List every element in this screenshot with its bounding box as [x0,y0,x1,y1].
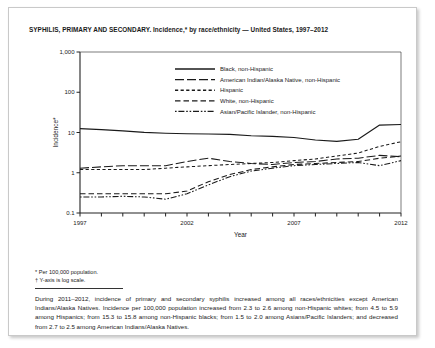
horizontal-divider [35,288,123,289]
chart-container: 1,0001001010.11997200220072012YearIncide… [9,38,418,243]
x-axis-tick-label: 1997 [73,220,87,226]
report-page: SYPHILIS, PRIMARY AND SECONDARY. Inciden… [8,7,417,336]
legend-label-0: Black, non-Hispanic [220,66,273,72]
legend-label-1: American Indian/Alaska Native, non-Hispa… [220,77,340,83]
y-axis-tick-label: 0.1 [66,210,75,216]
y-axis-tick-label: 100 [64,89,75,95]
x-axis-tick-label: 2012 [394,220,408,226]
footnote-per-population: * Per 100,000 population. [35,269,98,277]
legend-label-3: White, non-Hispanic [220,98,274,104]
y-axis-tick-label: 1 [71,170,75,176]
summary-paragraph: During 2011–2012, incidence of primary a… [35,294,398,331]
y-axis-title: Incidence* [52,117,59,147]
y-axis-tick-label: 10 [68,130,75,136]
page-title: SYPHILIS, PRIMARY AND SECONDARY. Inciden… [29,26,404,34]
series-line-0 [80,125,401,142]
y-axis-tick-label: 1,000 [59,49,75,55]
incidence-line-chart: 1,0001001010.11997200220072012YearIncide… [9,38,418,243]
series-line-3 [80,156,401,194]
legend-label-2: Hispanic [220,87,243,93]
series-line-4 [80,161,401,200]
x-axis-tick-label: 2007 [287,220,301,226]
footnote-log-scale: † Y-axis is log scale. [35,277,85,285]
legend-label-4: Asian/Pacific Islander, non-Hispanic [220,109,315,115]
x-axis-title: Year [234,231,248,238]
x-axis-tick-label: 2002 [180,220,194,226]
